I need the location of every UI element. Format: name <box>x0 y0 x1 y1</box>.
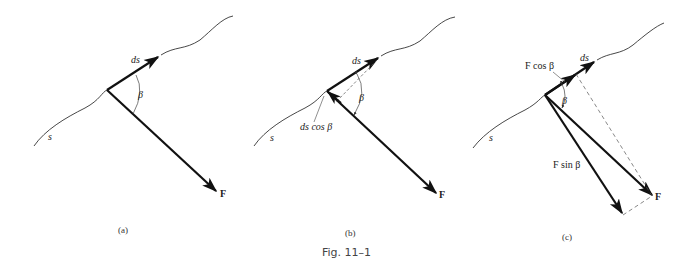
path-label: s <box>489 132 493 143</box>
ds-label: ds <box>131 54 140 65</box>
normal-component-label: F sin β <box>553 159 580 170</box>
panel-label: (c) <box>562 232 572 242</box>
panel-a: ds β F s (a) <box>34 16 233 235</box>
panel-label: (a) <box>118 225 128 235</box>
force-vector-arrow <box>327 91 436 193</box>
figure-11-1: ds β F s (a) ds β F s ds cos β (b) Fig. … <box>0 0 693 273</box>
projection-arrow <box>328 92 341 103</box>
panel-label: (b) <box>345 228 356 238</box>
path-curve <box>254 17 455 146</box>
panel-c: ds β F s F cos β F sin β (c) <box>473 23 664 242</box>
normal-component-arrow <box>545 95 622 213</box>
path-label: s <box>48 131 52 142</box>
force-label: F <box>439 189 445 200</box>
force-vector-arrow <box>107 90 216 191</box>
tangential-component-label: F cos β <box>525 60 554 71</box>
projection-leader-line <box>314 96 324 122</box>
figure-caption: Fig. 11–1 <box>322 246 371 259</box>
panel-b: ds β F s ds cos β (b) Fig. 11–1 <box>254 17 455 259</box>
ds-label: ds <box>580 52 589 63</box>
ds-label: ds <box>352 55 361 66</box>
angle-label: β <box>137 89 143 100</box>
angle-label: β <box>358 92 364 103</box>
tangential-leader-line <box>553 72 565 82</box>
force-label: F <box>655 191 661 202</box>
path-label: s <box>270 132 274 143</box>
angle-label: β <box>561 95 567 106</box>
projection-label: ds cos β <box>300 121 332 132</box>
path-curve <box>34 16 233 146</box>
force-label: F <box>220 188 226 199</box>
dashed-construction-line <box>623 196 652 215</box>
